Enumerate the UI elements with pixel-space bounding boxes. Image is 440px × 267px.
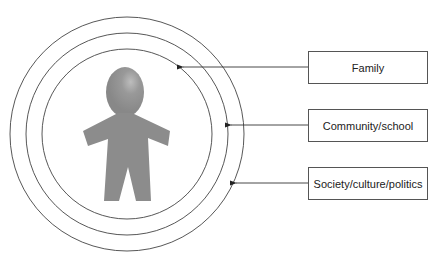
label-society: Society/culture/politics — [314, 178, 423, 190]
label-box-society: Society/culture/politics — [308, 167, 428, 200]
child-figure-icon — [83, 67, 170, 201]
label-family: Family — [352, 62, 384, 74]
label-community: Community/school — [323, 120, 413, 132]
label-box-family: Family — [308, 51, 428, 84]
label-box-community: Community/school — [308, 109, 428, 142]
